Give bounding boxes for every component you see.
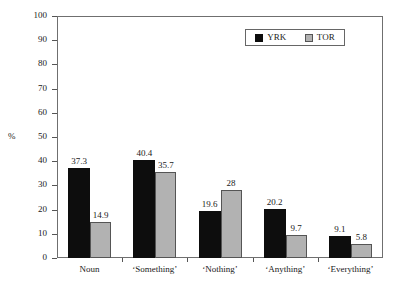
y-tick-label: 50 (38, 131, 47, 141)
legend-swatch-tor-icon (305, 34, 313, 42)
y-tick-mark (52, 234, 57, 235)
y-tick-label: 40 (38, 155, 47, 165)
bar-yrk-2 (199, 211, 221, 258)
legend-label-yrk: YRK (267, 33, 286, 42)
y-tick-mark (52, 113, 57, 114)
x-axis-label-0: Noun (80, 264, 100, 274)
bar-value-label: 37.3 (71, 156, 87, 166)
bar-value-label: 5.8 (356, 232, 367, 242)
bar-value-label: 19.6 (202, 199, 218, 209)
y-tick-label: 80 (38, 58, 47, 68)
bar-tor-4 (351, 244, 372, 258)
x-axis-label-3: ‘Anything’ (265, 264, 305, 274)
y-tick-mark (52, 185, 57, 186)
y-tick-mark (52, 210, 57, 211)
legend-swatch-yrk-icon (255, 34, 263, 42)
y-tick-mark (52, 89, 57, 90)
bar-value-label: 9.7 (291, 223, 302, 233)
legend-label-tor: TOR (317, 33, 335, 42)
x-axis-label-2: ‘Nothing’ (202, 264, 238, 274)
bar-tor-1 (155, 172, 176, 258)
y-tick-label: 20 (38, 204, 47, 214)
y-tick-label: 10 (38, 228, 47, 238)
y-tick-label: 70 (38, 83, 47, 93)
legend-entry-yrk: YRK (255, 33, 286, 42)
x-tick-mark (187, 258, 188, 262)
x-axis-label-4: ‘Everything’ (327, 264, 373, 274)
x-tick-mark (318, 258, 319, 262)
bar-tor-3 (286, 235, 307, 258)
bar-value-label: 40.4 (136, 148, 152, 158)
bar-chart-figure: % 1009080706050403020100 Noun‘Something’… (0, 0, 401, 291)
y-tick-label: 90 (38, 34, 47, 44)
y-tick-mark (52, 258, 57, 259)
y-tick-mark (52, 16, 57, 17)
x-tick-mark (253, 258, 254, 262)
bar-yrk-3 (264, 209, 286, 258)
bar-tor-0 (90, 222, 111, 258)
y-axis-label: % (8, 131, 16, 141)
y-tick-label: 60 (38, 107, 47, 117)
y-tick-label: 30 (38, 179, 47, 189)
bar-value-label: 20.2 (267, 197, 283, 207)
x-axis-label-1: ‘Something’ (132, 264, 177, 274)
bar-yrk-4 (329, 236, 351, 258)
y-tick-mark (52, 137, 57, 138)
bar-value-label: 35.7 (158, 160, 174, 170)
y-tick-mark (52, 64, 57, 65)
y-tick-mark (52, 40, 57, 41)
x-tick-mark (122, 258, 123, 262)
bar-value-label: 14.9 (93, 210, 109, 220)
bar-value-label: 28 (227, 178, 236, 188)
legend: YRK TOR (245, 29, 345, 46)
y-tick-mark (52, 161, 57, 162)
bar-value-label: 9.1 (334, 224, 345, 234)
legend-entry-tor: TOR (305, 33, 335, 42)
bar-yrk-1 (133, 160, 155, 258)
y-tick-label: 100 (34, 10, 48, 20)
bar-tor-2 (221, 190, 242, 258)
bar-yrk-0 (68, 168, 90, 258)
y-tick-label: 0 (43, 252, 48, 262)
